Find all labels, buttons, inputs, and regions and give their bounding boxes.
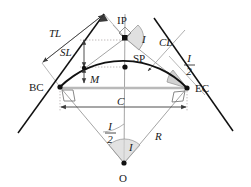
sp-dot [122, 64, 127, 69]
angle-i-half-o-arc [103, 124, 124, 132]
bc-dot [57, 84, 62, 89]
angle-i-o-wedge [109, 139, 140, 163]
angle-i-ip-wedge [125, 25, 144, 50]
label-o: O [119, 172, 127, 184]
figure-labels: IP SP BC EC O TL SL M CL C R I I I 2 I 2 [29, 14, 209, 184]
angle-marks [103, 25, 187, 163]
label-i-half-ec-den: 2 [186, 65, 192, 77]
tl-guide-tick-bc [42, 63, 60, 87]
label-angle-i-ip: I [141, 33, 147, 45]
o-dot [121, 160, 126, 165]
label-r: R [154, 130, 162, 142]
label-cl: CL [159, 36, 172, 48]
label-tl: TL [49, 27, 61, 39]
label-sp: SP [133, 52, 145, 64]
label-i-half-o-den: 2 [107, 133, 113, 145]
tangent-line-right [154, 18, 233, 131]
curve-geometry-figure: IP SP BC EC O TL SL M CL C R I I I 2 I 2 [0, 0, 251, 187]
label-c: C [117, 95, 125, 107]
ec-dot [184, 85, 189, 90]
label-bc: BC [29, 81, 44, 93]
label-m: M [89, 73, 100, 85]
label-sl: SL [60, 46, 72, 58]
m-dot [82, 66, 86, 70]
label-i-half-ec-num: I [186, 52, 192, 64]
label-ec: EC [195, 82, 209, 94]
label-ip: IP [117, 14, 127, 26]
ip-dot [122, 35, 128, 41]
